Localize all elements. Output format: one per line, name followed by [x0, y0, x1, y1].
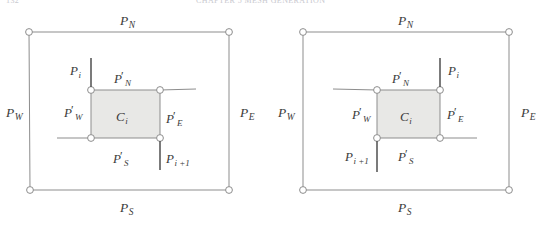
outer-node-sw	[300, 187, 307, 194]
label-outer-north: PN	[120, 12, 135, 28]
figure-root: 132 CHAPTER 5 MESH GENERATION	[0, 0, 544, 225]
label-cell-north: P′N	[392, 70, 409, 86]
cell-node-ne	[157, 87, 164, 94]
cell-node-sw	[374, 135, 381, 142]
outer-node-ne	[506, 29, 513, 36]
label-stub-pi-plus-1: Pi +1	[166, 150, 189, 166]
outer-node-nw	[300, 29, 307, 36]
label-outer-east: PE	[240, 104, 254, 120]
label-stub-pi: Pi	[70, 62, 80, 78]
cell-node-nw	[88, 87, 95, 94]
label-outer-west: PW	[6, 104, 22, 120]
patch-diagram-left: PN PS PW PE P′N P′S P′W P′E Ci Pi	[0, 0, 272, 225]
cell-node-se	[157, 135, 164, 142]
stub-west-of-nw-node	[333, 89, 377, 90]
label-outer-west: PW	[278, 104, 294, 120]
outer-edge-west	[29, 32, 30, 190]
cell-node-nw	[374, 87, 381, 94]
cell-node-ne	[437, 87, 444, 94]
label-outer-south: PS	[120, 199, 133, 215]
stub-east-of-ne-node	[160, 89, 196, 90]
cell-node-se	[437, 135, 444, 142]
label-cell-west: P′W	[64, 104, 82, 120]
label-cell-east: P′E	[166, 110, 182, 126]
label-outer-east: PE	[521, 104, 535, 120]
outer-node-nw	[26, 29, 33, 36]
outer-node-se	[226, 187, 233, 194]
label-cell-north: P′N	[114, 70, 131, 86]
label-cell-west: P′W	[352, 106, 370, 122]
label-cell-south: P′S	[113, 150, 128, 166]
label-cell-center: Ci	[116, 108, 127, 124]
label-stub-pi-plus-1: Pi +1	[345, 148, 368, 164]
label-outer-north: PN	[398, 12, 413, 28]
outer-node-se	[506, 187, 513, 194]
outer-node-ne	[226, 29, 233, 36]
label-cell-center: Ci	[400, 108, 411, 124]
label-outer-south: PS	[398, 199, 411, 215]
cell-node-sw	[88, 135, 95, 142]
outer-node-sw	[27, 187, 34, 194]
left-diagram-svg	[0, 0, 272, 225]
label-stub-pi: Pi	[448, 62, 458, 78]
patch-diagram-right: PN PS PW PE P′N P′S P′W P′E Ci Pi	[272, 0, 544, 225]
label-cell-south: P′S	[398, 148, 413, 164]
label-cell-east: P′E	[447, 106, 463, 122]
